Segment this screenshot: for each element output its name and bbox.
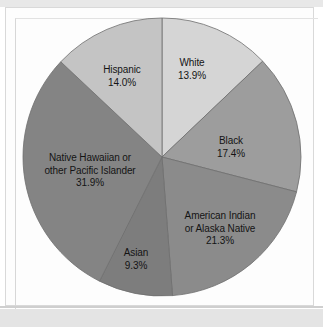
pie-slice-label-name: Black bbox=[190, 135, 272, 148]
pie-slice-label: Native Hawaiian orother Pacific Islander… bbox=[25, 152, 155, 190]
pie-slice-label-name: Hispanic bbox=[80, 64, 164, 77]
pie-slice-label-name-line2: or Alaska Native bbox=[165, 223, 275, 236]
pie-slice-label-value: 14.0% bbox=[80, 77, 164, 90]
pie-slice-label-name-line2: other Pacific Islander bbox=[25, 165, 155, 178]
pie-slice-label: Black17.4% bbox=[190, 135, 272, 160]
pie-slice-label-value: 17.4% bbox=[190, 148, 272, 161]
pie-slice-label-name: American Indian bbox=[165, 210, 275, 223]
page-top-band bbox=[0, 0, 323, 7]
pie-slice-label-value: 21.3% bbox=[165, 235, 275, 248]
pie-slice-label-value: 9.3% bbox=[101, 260, 171, 273]
pie-slice-label-name: Asian bbox=[101, 247, 171, 260]
chart-page: White13.9%Black17.4%American Indianor Al… bbox=[0, 0, 323, 327]
page-bottom-band bbox=[0, 309, 323, 327]
figure-bottom-rule bbox=[0, 306, 323, 308]
pie-chart: White13.9%Black17.4%American Indianor Al… bbox=[5, 7, 314, 306]
pie-slice-label-name: Native Hawaiian or bbox=[25, 152, 155, 165]
pie-slice-label: Hispanic14.0% bbox=[80, 64, 164, 89]
pie-slice-label: Asian9.3% bbox=[101, 247, 171, 272]
pie-slice-label-value: 31.9% bbox=[25, 177, 155, 190]
pie-slice-label: American Indianor Alaska Native21.3% bbox=[165, 210, 275, 248]
